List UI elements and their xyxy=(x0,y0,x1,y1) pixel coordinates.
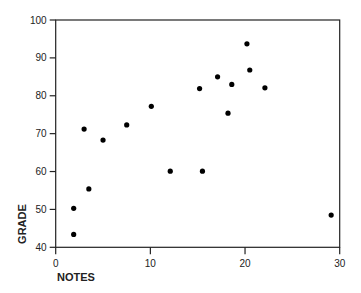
data-point xyxy=(71,232,76,237)
x-tick-label: 20 xyxy=(239,258,251,269)
y-tick-label: 100 xyxy=(30,15,47,26)
scatter-chart: 405060708090100 0102030 NOTES GRADE xyxy=(0,0,361,293)
y-tick-label: 70 xyxy=(36,128,48,139)
x-tick-label: 0 xyxy=(53,258,59,269)
x-axis-title: NOTES xyxy=(57,271,95,283)
data-point xyxy=(329,212,334,217)
data-point xyxy=(168,169,173,174)
data-point xyxy=(225,111,230,116)
y-axis-ticks: 405060708090100 xyxy=(30,15,56,253)
data-point xyxy=(262,85,267,90)
data-point xyxy=(247,67,252,72)
data-point xyxy=(100,137,105,142)
y-tick-label: 80 xyxy=(36,90,48,101)
data-points xyxy=(71,41,334,237)
y-tick-label: 60 xyxy=(36,166,48,177)
data-point xyxy=(229,82,234,87)
data-point xyxy=(149,104,154,109)
x-tick-label: 10 xyxy=(145,258,157,269)
y-tick-label: 50 xyxy=(36,204,48,215)
data-point xyxy=(200,169,205,174)
data-point xyxy=(244,41,249,46)
data-point xyxy=(86,186,91,191)
plot-frame xyxy=(56,20,340,247)
y-tick-label: 40 xyxy=(36,242,48,253)
data-point xyxy=(124,122,129,127)
y-axis-title: GRADE xyxy=(16,204,28,244)
data-point xyxy=(71,206,76,211)
data-point xyxy=(197,86,202,91)
x-axis-ticks: 0102030 xyxy=(53,247,346,269)
data-point xyxy=(215,74,220,79)
x-tick-label: 30 xyxy=(334,258,346,269)
data-point xyxy=(82,127,87,132)
y-tick-label: 90 xyxy=(36,52,48,63)
